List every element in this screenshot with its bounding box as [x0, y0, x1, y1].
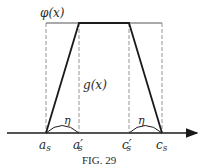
label-eta-right: η — [138, 114, 145, 127]
label-c-s: cs — [156, 138, 168, 153]
label-eta-left: η — [64, 114, 71, 127]
label-a-prime-s: a′s — [73, 138, 83, 153]
figure-caption: FIG. 29 — [82, 154, 117, 166]
label-a-s: as — [39, 138, 51, 153]
label-phi: φ(x) — [40, 6, 65, 20]
label-g: g(x) — [83, 78, 107, 92]
eta-arc-right — [129, 126, 162, 134]
eta-arc-left — [46, 126, 79, 134]
label-c-prime-s: c′s — [122, 138, 132, 153]
figure-29-diagram: φ(x) g(x) η η as a′s c′s cs FIG. 29 — [0, 0, 208, 168]
